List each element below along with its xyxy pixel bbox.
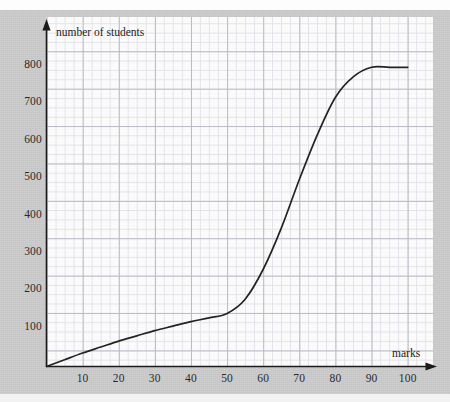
chart-page: 800 700 600 500 400 300 200 100 10 20 30…: [0, 0, 450, 402]
chart-svg: [0, 0, 450, 402]
y-tick-label-200: 200: [10, 282, 42, 294]
x-tick-label-10: 10: [66, 372, 100, 384]
x-axis: [47, 362, 438, 370]
x-tick-label-100: 100: [391, 372, 425, 384]
x-tick-label-20: 20: [102, 372, 136, 384]
x-tick-label-50: 50: [210, 372, 244, 384]
y-tick-label-700: 700: [10, 95, 42, 107]
x-tick-label-70: 70: [282, 372, 316, 384]
x-axis-title: marks: [392, 347, 420, 359]
y-tick-label-400: 400: [10, 208, 42, 220]
x-tick-label-90: 90: [355, 372, 389, 384]
y-tick-label-600: 600: [10, 133, 42, 145]
x-tick-label-40: 40: [174, 372, 208, 384]
x-tick-label-80: 80: [319, 372, 353, 384]
y-tick-label-100: 100: [10, 320, 42, 332]
cumulative-frequency-curve: [47, 67, 408, 367]
y-tick-label-800: 800: [10, 58, 42, 70]
y-tick-label-500: 500: [10, 170, 42, 182]
x-tick-label-30: 30: [138, 372, 172, 384]
y-tick-label-300: 300: [10, 245, 42, 257]
y-axis: [42, 19, 50, 367]
x-tick-label-60: 60: [246, 372, 280, 384]
y-axis-title: number of students: [56, 26, 144, 38]
